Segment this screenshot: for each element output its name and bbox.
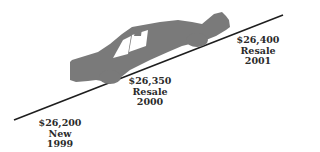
price-2000: $26,350	[120, 76, 180, 87]
car-silhouette-icon	[70, 12, 230, 84]
price-2001: $26,400	[228, 35, 288, 46]
label-2000-resale: $26,350 Resale 2000	[120, 76, 180, 108]
year-1999: 1999	[30, 139, 90, 150]
year-2001: 2001	[228, 56, 288, 67]
price-1999: $26,200	[30, 118, 90, 129]
year-2000: 2000	[120, 97, 180, 108]
label-1999-new: $26,200 New 1999	[30, 118, 90, 150]
label-2001-resale: $26,400 Resale 2001	[228, 35, 288, 67]
